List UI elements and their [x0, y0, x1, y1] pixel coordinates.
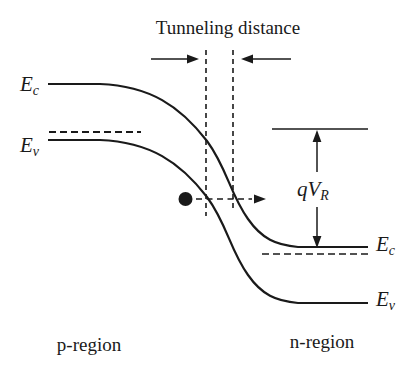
n-region-label: n-region — [290, 331, 355, 352]
band-diagram-figure: Tunneling distance — [0, 0, 417, 371]
bias-sub: R — [319, 188, 329, 203]
diagram-title: Tunneling distance — [156, 17, 300, 38]
conduction-band-curve — [48, 84, 368, 247]
ev-left-base: E — [19, 133, 33, 157]
bias-label: qVR — [297, 177, 329, 203]
bias-base: qV — [297, 177, 323, 201]
electron-dot-icon — [179, 192, 193, 206]
tunnel-junction-band-diagram: Tunneling distance — [0, 0, 417, 371]
ec-right-sub: c — [389, 243, 396, 258]
tunneling-distance-marker — [151, 50, 291, 216]
ev-left-label: Ev — [19, 133, 40, 159]
left-arrowhead-icon — [241, 55, 253, 64]
ec-right-base: E — [375, 232, 389, 256]
ec-left-base: E — [19, 72, 33, 96]
p-region-label: p-region — [57, 334, 122, 355]
ec-right-label: Ec — [375, 232, 396, 258]
right-arrowhead-icon — [187, 55, 199, 64]
ec-left-sub: c — [33, 83, 40, 98]
up-arrowhead-icon — [313, 130, 322, 142]
ev-right-label: Ev — [375, 287, 396, 313]
valence-band-curve — [48, 140, 368, 303]
ev-right-sub: v — [389, 298, 396, 313]
ev-right-base: E — [375, 287, 389, 311]
ec-left-label: Ec — [19, 72, 40, 98]
ev-left-sub: v — [33, 144, 40, 159]
tunneling-arrowhead-icon — [254, 195, 266, 204]
